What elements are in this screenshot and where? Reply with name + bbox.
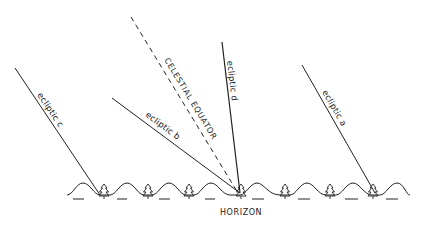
diagram-canvas: ecliptic c ecliptic b CELESTIAL EQUATOR … xyxy=(0,0,424,225)
tree-icon xyxy=(99,184,109,199)
tree-icon xyxy=(143,184,153,199)
tree-icon xyxy=(280,184,290,199)
tree-icon xyxy=(184,184,194,199)
ecliptic-b-line xyxy=(112,98,240,193)
ecliptic-c-line xyxy=(15,68,100,195)
horizon-label: HORIZON xyxy=(220,208,262,217)
tree-icon xyxy=(368,184,378,199)
tree-icon xyxy=(325,184,335,199)
ecliptic-a-line xyxy=(302,65,375,193)
ecliptic-c-label: ecliptic c xyxy=(35,91,66,130)
